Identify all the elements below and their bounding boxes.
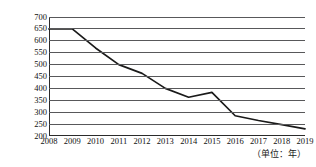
gridline: [49, 88, 305, 89]
gridline: [49, 100, 305, 101]
y-axis-tick-label: 350: [22, 96, 47, 105]
gridline: [49, 112, 305, 113]
x-axis-tick-label: 2019: [292, 136, 316, 146]
y-axis-tick-label: 500: [22, 60, 47, 69]
x-axis-tick-label: 2010: [83, 136, 109, 146]
gridline: [49, 52, 305, 53]
x-axis-tick-label: 2008: [36, 136, 62, 146]
plot-area: [49, 17, 305, 136]
y-axis-tick-label: 400: [22, 84, 47, 93]
series-polyline: [49, 28, 305, 128]
x-axis-tick-label: 2012: [129, 136, 155, 146]
y-axis-tick-label: 550: [22, 48, 47, 57]
x-axis-tick-label: 2011: [106, 136, 132, 146]
x-axis-tick-label: 2013: [152, 136, 178, 146]
gridline: [49, 76, 305, 77]
x-axis-tick-label: 2015: [199, 136, 225, 146]
y-axis-tick-label: 600: [22, 36, 47, 45]
gridline: [49, 40, 305, 41]
y-axis-tick-label: 700: [22, 13, 47, 22]
x-axis-tick-label: 2016: [222, 136, 248, 146]
gridline: [49, 64, 305, 65]
x-axis-tick-label: 2017: [245, 136, 271, 146]
chart-figure: （单位：万亩） 70065060055050045040035030025020…: [0, 0, 316, 167]
y-axis-tick-labels: 700650600550500450400350300250200: [22, 12, 47, 136]
y-axis-tick-label: 250: [22, 120, 47, 129]
x-axis-tick-label: 2009: [59, 136, 85, 146]
y-axis-tick-label: 300: [22, 108, 47, 117]
gridline: [49, 17, 305, 18]
gridline: [49, 28, 305, 29]
x-axis-title: （单位：年）: [252, 149, 306, 160]
x-axis-tick-labels: 2008200920102011201220132014201520162017…: [49, 136, 307, 148]
y-axis-tick-label: 650: [22, 24, 47, 33]
gridline: [49, 124, 305, 125]
x-axis-tick-label: 2018: [269, 136, 295, 146]
y-axis-tick-label: 450: [22, 72, 47, 81]
x-axis-tick-label: 2014: [176, 136, 202, 146]
